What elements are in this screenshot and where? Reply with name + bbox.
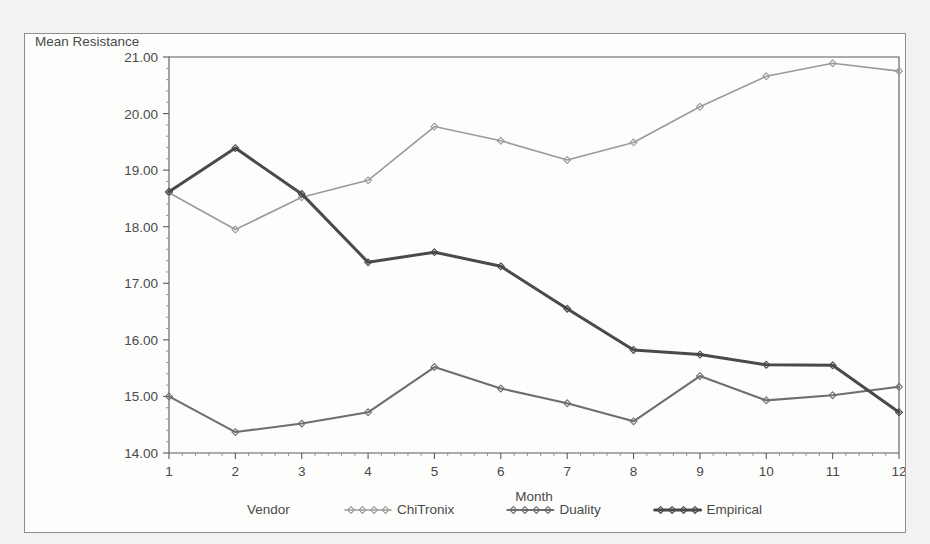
- x-tick-label: 5: [431, 464, 439, 479]
- x-tick-label: 4: [364, 464, 372, 479]
- x-tick-label: 2: [232, 464, 240, 479]
- chart-frame: Mean Resistance14.0015.0016.0017.0018.00…: [24, 33, 906, 533]
- x-tick-label: 1: [165, 464, 173, 479]
- x-tick-label: 10: [759, 464, 774, 479]
- y-tick-label: 14.00: [124, 446, 158, 461]
- x-tick-label: 6: [497, 464, 505, 479]
- y-tick-label: 18.00: [124, 220, 158, 235]
- x-tick-label: 11: [826, 464, 840, 479]
- plot-border: [169, 57, 899, 453]
- y-tick-label: 17.00: [124, 276, 158, 291]
- x-axis-title: Month: [515, 489, 553, 504]
- cut-off-text-top: [0, 0, 930, 14]
- legend-label-empirical: Empirical: [707, 502, 763, 517]
- series-line-chitronix: [169, 63, 899, 229]
- legend-label-chitronix: ChiTronix: [397, 502, 455, 517]
- y-tick-label: 21.00: [124, 50, 158, 65]
- x-tick-label: 3: [298, 464, 306, 479]
- x-tick-label: 9: [696, 464, 704, 479]
- series-line-duality: [169, 367, 899, 432]
- x-tick-label: 7: [563, 464, 571, 479]
- legend-label-duality: Duality: [559, 502, 601, 517]
- x-tick-label: 8: [630, 464, 638, 479]
- legend-title: Vendor: [247, 502, 290, 517]
- y-tick-label: 20.00: [124, 107, 158, 122]
- line-chart: Mean Resistance14.0015.0016.0017.0018.00…: [25, 34, 905, 532]
- x-tick-label: 12: [891, 464, 905, 479]
- y-tick-label: 19.00: [124, 163, 158, 178]
- y-tick-label: 16.00: [124, 333, 158, 348]
- y-axis-title: Mean Resistance: [35, 34, 139, 49]
- y-tick-label: 15.00: [124, 389, 158, 404]
- series-line-empirical: [169, 148, 899, 412]
